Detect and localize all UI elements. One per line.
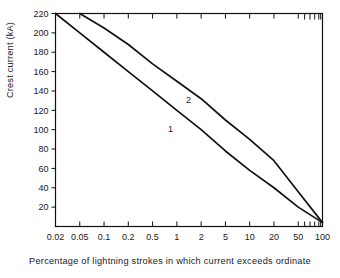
x-tick-label: 1	[174, 232, 179, 242]
x-tick-label: 0.05	[71, 232, 89, 242]
y-tick-label: 20	[38, 202, 48, 212]
x-tick-label: 0.2	[122, 232, 135, 242]
x-axis-minor-ticks	[305, 14, 321, 227]
x-tick-label: 2	[199, 232, 204, 242]
x-axis-ticks-bottom	[80, 222, 298, 227]
x-tick-label: 20	[269, 232, 279, 242]
lightning-stroke-chart-figure: 20406080100120140160180200220 0.020.050.…	[0, 0, 340, 278]
y-tick-label: 180	[33, 47, 48, 57]
y-axis-title: Crest current (kA)	[5, 0, 21, 135]
x-tick-label: 0.1	[98, 232, 111, 242]
y-tick-label: 220	[33, 9, 48, 19]
curve-1	[56, 14, 323, 223]
y-axis-title-text: Crest current (kA)	[5, 22, 15, 98]
y-tick-label: 80	[38, 144, 48, 154]
curve-1-annotation: 1	[168, 124, 173, 134]
y-tick-label: 160	[33, 67, 48, 77]
x-tick-label: 0.02	[47, 232, 65, 242]
y-tick-label: 40	[38, 183, 48, 193]
y-axis-tick-labels: 20406080100120140160180200220	[33, 9, 48, 213]
x-tick-label: 10	[245, 232, 255, 242]
x-tick-label: 0.5	[146, 232, 159, 242]
x-tick-label: 5	[223, 232, 228, 242]
y-tick-label: 120	[33, 106, 48, 116]
curve-2-annotation: 2	[186, 95, 191, 105]
x-tick-label: 100	[315, 232, 330, 242]
chart-canvas: 20406080100120140160180200220 0.020.050.…	[0, 0, 340, 278]
x-axis-tick-labels: 0.020.050.10.20.5125102050100	[47, 232, 330, 242]
x-axis-ticks-top	[80, 14, 298, 19]
x-axis-title-text: Percentage of lightning strokes in which…	[29, 256, 311, 266]
y-tick-label: 100	[33, 125, 48, 135]
x-tick-label: 50	[293, 232, 303, 242]
curve-2	[80, 14, 323, 223]
x-axis-title: Percentage of lightning strokes in which…	[0, 256, 340, 266]
y-tick-label: 200	[33, 28, 48, 38]
data-curves	[56, 14, 323, 223]
y-tick-label: 60	[38, 164, 48, 174]
y-tick-label: 140	[33, 86, 48, 96]
